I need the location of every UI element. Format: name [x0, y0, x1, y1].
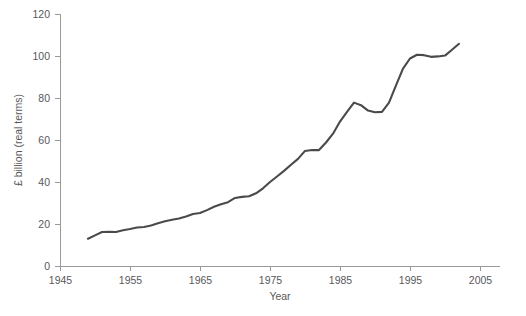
- y-axis-title: £ billion (real terms): [12, 94, 24, 186]
- x-tick-label: 1955: [119, 274, 143, 286]
- y-tick-label: 40: [38, 176, 50, 188]
- y-tick-label: 60: [38, 134, 50, 146]
- chart-container: 020406080100120 194519551965197519851995…: [0, 0, 526, 316]
- data-series-line: [88, 44, 459, 239]
- y-tick-label: 80: [38, 92, 50, 104]
- x-tick-label: 1945: [49, 274, 73, 286]
- x-tick-label: 1975: [259, 274, 283, 286]
- x-axis-tick-labels: 1945195519651975198519952005: [49, 274, 493, 286]
- y-tick-label: 20: [38, 218, 50, 230]
- x-tick-label: 2005: [469, 274, 493, 286]
- y-tick-label: 120: [32, 8, 50, 20]
- y-tick-label: 100: [32, 50, 50, 62]
- x-tick-label: 1985: [329, 274, 353, 286]
- axis-tick-marks: [55, 15, 481, 272]
- x-axis-title: Year: [269, 290, 291, 302]
- y-tick-label: 0: [44, 260, 50, 272]
- x-tick-label: 1965: [189, 274, 213, 286]
- x-tick-label: 1995: [399, 274, 423, 286]
- y-axis-tick-labels: 020406080100120: [32, 8, 50, 272]
- line-chart: 020406080100120 194519551965197519851995…: [0, 0, 526, 316]
